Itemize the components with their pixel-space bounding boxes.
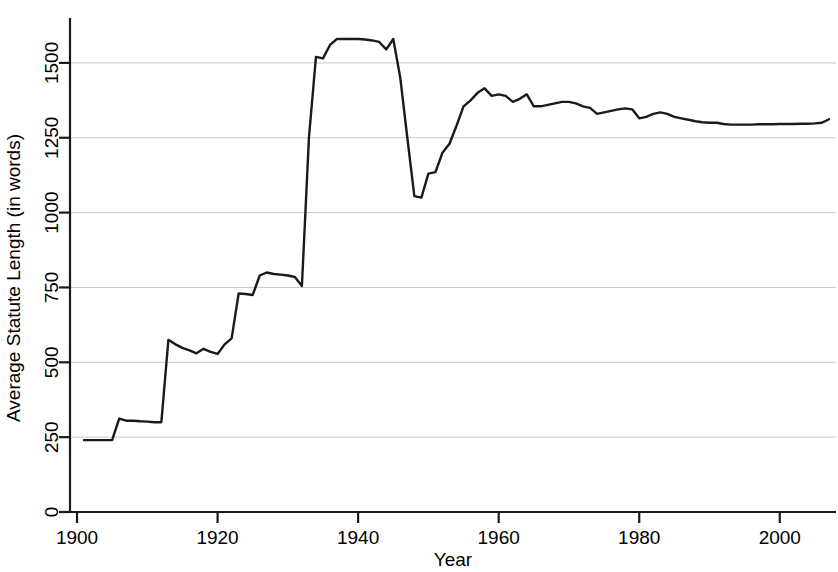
y-tick-label: 250 xyxy=(41,421,62,453)
x-tick-label: 1940 xyxy=(337,527,379,548)
data-series-line xyxy=(84,39,829,440)
y-tick-label: 500 xyxy=(41,346,62,378)
gridlines xyxy=(70,63,836,512)
y-tick-label: 1500 xyxy=(41,42,62,84)
x-axis-title: Year xyxy=(434,549,473,570)
x-tick-label: 2000 xyxy=(759,527,801,548)
x-tick-label: 1920 xyxy=(196,527,238,548)
x-tick-label: 1980 xyxy=(618,527,660,548)
x-axis-ticks: 190019201940196019802000 xyxy=(56,512,801,548)
y-tick-label: 0 xyxy=(41,507,62,518)
chart-figure: 0250500750100012501500 19001920194019601… xyxy=(0,0,838,572)
y-axis-title: Average Statute Length (in words) xyxy=(3,134,24,422)
y-axis-ticks: 0250500750100012501500 xyxy=(41,42,70,518)
axis-lines xyxy=(70,18,836,512)
y-tick-label: 750 xyxy=(41,272,62,304)
line-chart: 0250500750100012501500 19001920194019601… xyxy=(0,0,838,572)
y-tick-label: 1000 xyxy=(41,191,62,233)
y-tick-label: 1250 xyxy=(41,117,62,159)
x-tick-label: 1900 xyxy=(56,527,98,548)
x-tick-label: 1960 xyxy=(478,527,520,548)
